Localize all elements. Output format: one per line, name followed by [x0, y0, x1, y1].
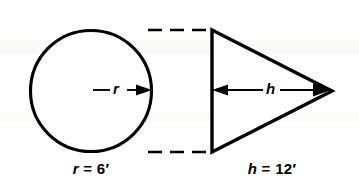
height-caption-unit: ′: [292, 160, 296, 177]
radius-caption: r = 6′: [0, 160, 182, 177]
height-caption-value: 12: [275, 160, 292, 177]
geometry-figure: r h r = 6′ h = 12′: [0, 0, 359, 190]
radius-caption-equals: =: [79, 160, 97, 177]
height-caption-variable: h: [248, 160, 257, 177]
height-caption: h = 12′: [212, 160, 332, 177]
tangent-guide-lines: [148, 30, 214, 152]
radius-variable-label: r: [113, 80, 119, 97]
base-circle: [31, 31, 152, 152]
radius-caption-unit: ′: [105, 160, 109, 177]
height-variable-label: h: [266, 80, 275, 97]
height-caption-equals: =: [257, 160, 275, 177]
